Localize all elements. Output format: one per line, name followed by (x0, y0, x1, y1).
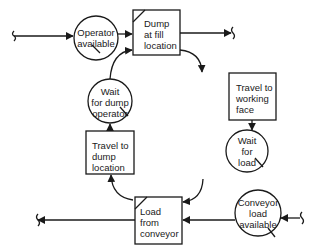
label-line: Load (140, 206, 182, 217)
label-line: available (234, 219, 282, 230)
label-line: load (230, 157, 264, 168)
label-line: for (230, 146, 264, 157)
label-load-from-conveyor: Load from conveyor (140, 206, 182, 239)
label-wait-for-dump-operator: Wait for dump operator (88, 86, 132, 119)
edge-wait-operator-to-dump (110, 50, 132, 79)
label-wait-for-load: Wait for load (230, 135, 264, 168)
label-line: location (92, 162, 134, 173)
edge-wait-load-to-load-conveyor (183, 179, 203, 202)
label-line: load (234, 208, 282, 219)
label-line: Travel to (92, 140, 134, 151)
label-line: Wait (88, 86, 132, 97)
label-line: face (236, 104, 276, 115)
label-line: Operator (76, 27, 116, 38)
label-line: at fill (144, 29, 180, 40)
label-line: Dump (144, 18, 180, 29)
label-line: available (76, 38, 116, 49)
label-line: conveyor (140, 228, 182, 239)
label-line: Travel to (236, 82, 276, 93)
label-dump-at-fill-location: Dump at fill location (144, 18, 180, 51)
label-line: working (236, 93, 276, 104)
label-conveyor-load-available: Conveyor load available (234, 197, 282, 230)
label-line: for dump (88, 97, 132, 108)
label-line: dump (92, 151, 134, 162)
label-travel-to-dump-location: Travel to dump location (92, 140, 134, 173)
label-operator-available: Operator available (76, 27, 116, 49)
edge-load-to-travel-dump (111, 175, 133, 200)
label-travel-to-working-face: Travel to working face (236, 82, 276, 115)
label-line: Conveyor (234, 197, 282, 208)
label-line: from (140, 217, 182, 228)
label-line: location (144, 40, 180, 51)
label-line: operator (88, 108, 132, 119)
edge-dump-to-travel-face (180, 50, 202, 72)
label-line: Wait (230, 135, 264, 146)
